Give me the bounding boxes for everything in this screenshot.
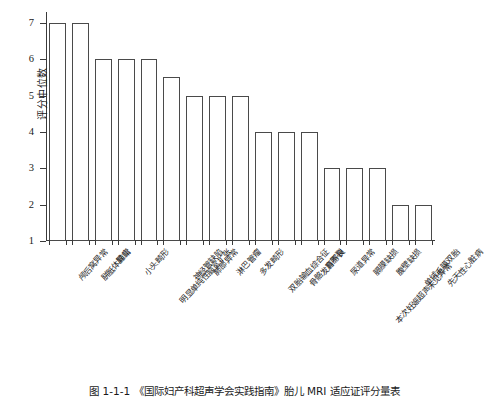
y-tick-label: 5: [0, 91, 34, 101]
x-tick-label: 颅后窝异常: [77, 248, 110, 283]
bar: [72, 23, 89, 241]
y-tick-label: 6: [0, 54, 34, 64]
x-tick-mark: [180, 240, 181, 245]
x-tick-mark: [89, 240, 90, 245]
x-tick-mark: [135, 240, 136, 245]
x-tick-mark: [66, 240, 67, 245]
x-tick-mark: [118, 240, 119, 245]
x-tick-mark: [203, 240, 204, 245]
x-tick-mark: [392, 240, 393, 245]
x-tick-label: 腹壁缺损: [395, 248, 423, 277]
x-tick-label: 膈膜缺损: [372, 248, 400, 277]
x-tick-label: 骨骼发育不良: [308, 248, 347, 288]
x-tick-label: 多发畸形: [257, 248, 285, 277]
x-tick-mark: [295, 240, 296, 245]
x-tick-label: 肺部异常: [212, 248, 240, 277]
x-tick-mark: [226, 240, 227, 245]
x-tick-mark: [415, 240, 416, 245]
y-tick-label: 7: [0, 18, 34, 28]
y-tick-label: 3: [0, 163, 34, 173]
x-tick-mark: [163, 240, 164, 245]
bar: [415, 205, 432, 241]
x-tick-mark: [432, 240, 433, 245]
x-tick-label: 脑疝: [115, 248, 132, 266]
x-tick-mark: [301, 240, 302, 245]
x-tick-label: 神经管缺陷: [191, 248, 224, 283]
bar: [278, 132, 295, 241]
x-tick-mark: [324, 240, 325, 245]
y-tick-label: 1: [0, 236, 34, 246]
x-tick-mark: [157, 240, 158, 245]
x-tick-label: 胼胝体异常: [100, 248, 133, 283]
bar: [209, 96, 226, 241]
x-tick-mark: [272, 240, 273, 245]
figure-caption: 图 1-1-1 《国际妇产科超声学会实践指南》胎儿 MRI 适应证评分量表: [0, 384, 489, 398]
x-tick-mark: [278, 240, 279, 245]
bar: [95, 59, 112, 241]
x-tick-mark: [340, 240, 341, 245]
bar: [369, 168, 386, 241]
x-tick-mark: [112, 240, 113, 245]
x-tick-mark: [232, 240, 233, 245]
x-tick-mark: [95, 240, 96, 245]
bar-series: [46, 12, 435, 241]
x-tick-mark: [346, 240, 347, 245]
x-tick-mark: [141, 240, 142, 245]
y-tick-mark: [40, 241, 46, 242]
bar: [392, 205, 409, 241]
bar: [118, 59, 135, 241]
x-tick-mark: [369, 240, 370, 245]
x-tick-mark: [363, 240, 364, 245]
bar: [141, 59, 158, 241]
bar: [301, 132, 318, 241]
x-tick-label: 小头畸形: [143, 248, 171, 277]
bar: [163, 77, 180, 241]
x-tick-label: 双胎输血综合征: [288, 248, 332, 294]
x-tick-label: 唇腭裂: [324, 248, 347, 271]
figure-container: 评分中位数 1234567 颅后窝异常胼胝体异常脑疝小头畸形明显单纯性脑室扩张神…: [0, 0, 489, 402]
y-tick-label: 2: [0, 200, 34, 210]
bar: [232, 96, 249, 241]
x-tick-mark: [186, 240, 187, 245]
x-tick-mark: [386, 240, 387, 245]
x-tick-label: 明显单纯性脑室扩张: [178, 248, 232, 305]
x-tick-label: 淋巴管瘤: [235, 248, 263, 277]
bar: [255, 132, 272, 241]
x-tick-label-annotation: 本次妊娠超声未见异常: [393, 262, 453, 325]
bar: [324, 168, 341, 241]
x-tick-mark: [409, 240, 410, 245]
x-tick-label: 单绒毛膜双胎: [423, 248, 462, 288]
bar: [346, 168, 363, 241]
bar: [49, 23, 66, 241]
x-tick-mark: [209, 240, 210, 245]
y-tick-label: 4: [0, 127, 34, 137]
x-tick-mark: [72, 240, 73, 245]
x-tick-mark: [318, 240, 319, 245]
bar: [186, 96, 203, 241]
x-tick-mark: [255, 240, 256, 245]
x-tick-label: 先天性心脏病: [445, 248, 484, 288]
x-tick-label: 尿道异常: [349, 248, 377, 277]
x-tick-mark: [49, 240, 50, 245]
x-tick-mark: [249, 240, 250, 245]
